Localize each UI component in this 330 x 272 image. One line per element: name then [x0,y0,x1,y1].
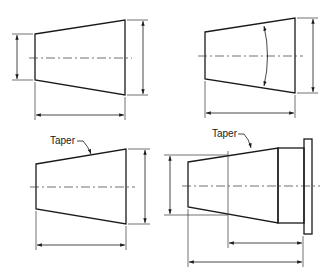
tapered-part-outline [188,148,278,223]
tapered-part-outline [35,20,125,95]
flange [304,139,312,234]
taper-leader-line [238,134,251,148]
taper-label: Taper [212,128,238,139]
tapered-part-outline [205,18,295,93]
view-top-left [12,20,148,120]
taper-leader-line [77,141,91,154]
tapered-part-outline [36,149,126,224]
taper-dimensioning-diagram: Taper Taper [0,0,330,272]
view-top-right [198,18,318,118]
shoulder-body [278,148,304,223]
view-bottom-left: Taper [30,135,150,250]
taper-label: Taper [50,135,76,146]
view-bottom-right: Taper [164,128,320,267]
